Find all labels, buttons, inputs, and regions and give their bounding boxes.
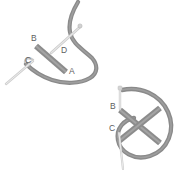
suture-diagram: B C A D B C	[0, 0, 188, 171]
diagram-canvas: B C A D B C	[0, 0, 188, 171]
label-d: D	[61, 45, 67, 55]
needle-hub-d-icon	[78, 24, 82, 28]
background	[0, 0, 188, 171]
label-b: B	[31, 33, 37, 43]
needle-hub-icon	[118, 86, 122, 90]
label-c: C	[25, 55, 31, 65]
label-a: A	[69, 66, 75, 76]
label-c-lower: C	[109, 123, 115, 133]
label-b-lower: B	[110, 101, 116, 111]
